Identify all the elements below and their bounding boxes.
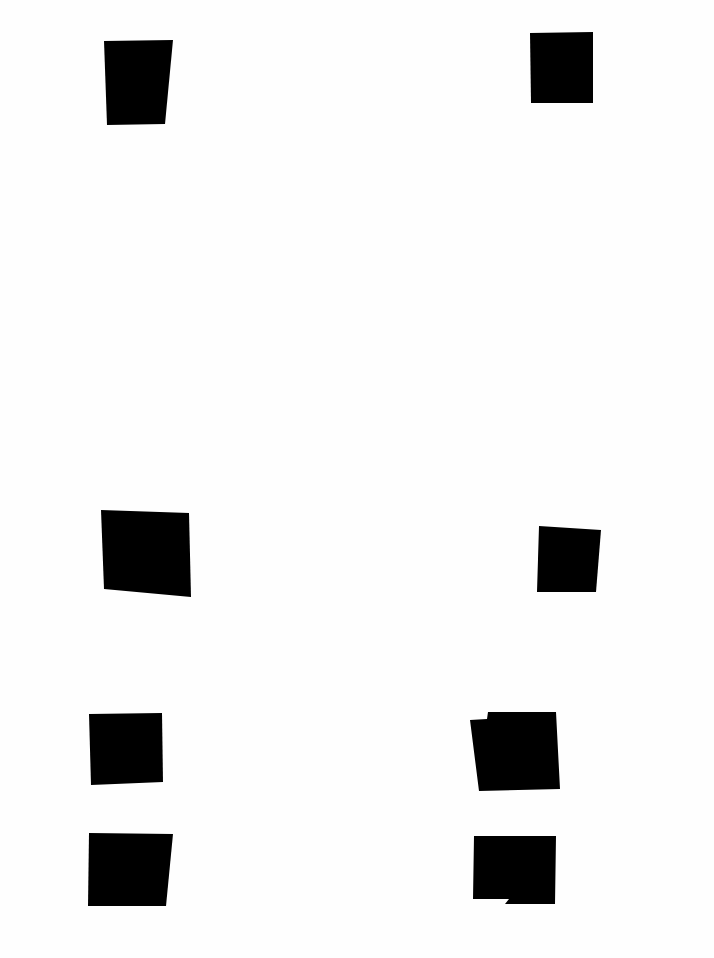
redaction-block-middle-right bbox=[537, 526, 601, 592]
redaction-block-lower-left-2 bbox=[88, 833, 173, 906]
redaction-block-middle-left bbox=[101, 510, 191, 597]
redaction-block-lower-left-1 bbox=[89, 713, 163, 785]
redaction-block-lower-right-1 bbox=[470, 712, 560, 791]
redaction-block-top-left bbox=[104, 40, 173, 125]
redaction-block-top-right bbox=[530, 32, 593, 103]
redaction-blocks bbox=[0, 0, 714, 958]
redaction-block-lower-right-2 bbox=[473, 836, 556, 904]
scanned-page bbox=[0, 0, 714, 958]
